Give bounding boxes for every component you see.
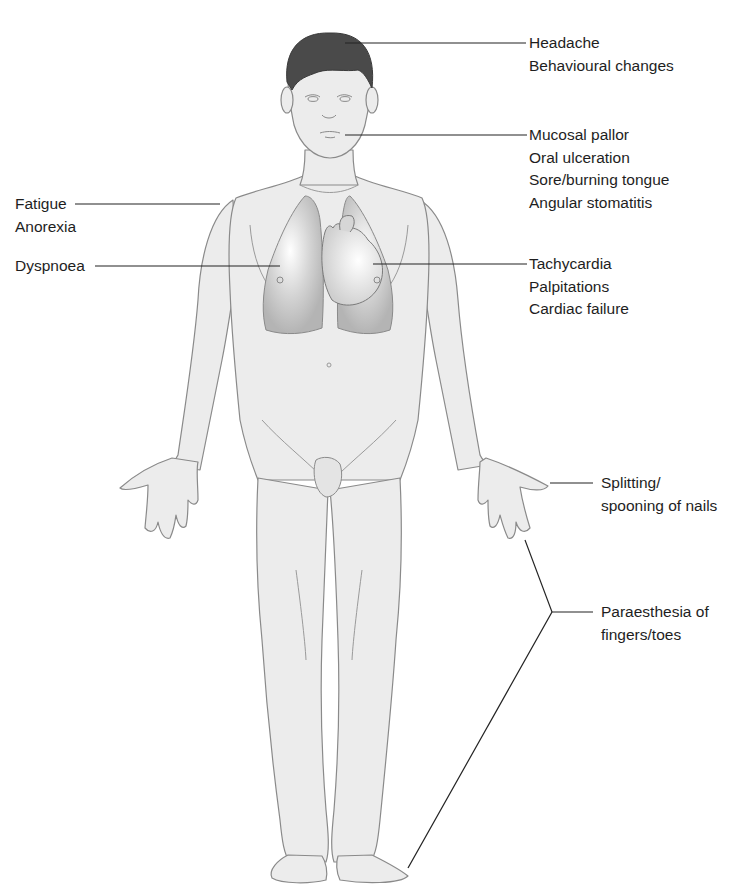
- leader-toe: [408, 612, 552, 868]
- left-leg: [257, 478, 329, 862]
- right-ear: [366, 87, 378, 113]
- label-line: Splitting/: [601, 472, 717, 495]
- left-arm: [170, 200, 236, 470]
- label-heart-symptoms: Tachycardia Palpitations Cardiac failure: [529, 253, 629, 321]
- label-line: Tachycardia: [529, 253, 629, 276]
- left-foot: [271, 855, 327, 883]
- label-line: Angular stomatitis: [529, 192, 669, 215]
- label-nail-symptoms: Splitting/ spooning of nails: [601, 472, 717, 517]
- label-head-symptoms: Headache Behavioural changes: [529, 32, 674, 77]
- right-foot: [337, 855, 408, 883]
- label-line: Fatigue: [15, 193, 76, 216]
- label-line: Oral ulceration: [529, 147, 669, 170]
- right-hand: [478, 458, 548, 538]
- label-line: Mucosal pallor: [529, 124, 669, 147]
- label-general-symptoms: Fatigue Anorexia: [15, 193, 76, 238]
- label-lung-symptoms: Dyspnoea: [15, 255, 85, 278]
- label-line: Cardiac failure: [529, 298, 629, 321]
- label-mouth-symptoms: Mucosal pallor Oral ulceration Sore/burn…: [529, 124, 669, 214]
- label-line: Palpitations: [529, 276, 629, 299]
- label-line: Behavioural changes: [529, 55, 674, 78]
- label-extremity-symptoms: Paraesthesia of fingers/toes: [601, 601, 709, 646]
- aorta: [340, 216, 355, 232]
- label-line: fingers/toes: [601, 624, 709, 647]
- body-silhouette: [120, 34, 548, 883]
- label-line: Paraesthesia of: [601, 601, 709, 624]
- label-line: spooning of nails: [601, 495, 717, 518]
- label-line: Headache: [529, 32, 674, 55]
- leader-finger: [525, 540, 552, 612]
- label-line: Anorexia: [15, 216, 76, 239]
- right-leg: [330, 478, 401, 862]
- anaemia-symptoms-diagram: Headache Behavioural changes Mucosal pal…: [0, 0, 746, 892]
- left-ear: [281, 87, 293, 113]
- right-arm: [420, 200, 488, 470]
- label-line: Dyspnoea: [15, 255, 85, 278]
- left-hand: [120, 458, 198, 538]
- label-line: Sore/burning tongue: [529, 169, 669, 192]
- torso: [229, 175, 429, 480]
